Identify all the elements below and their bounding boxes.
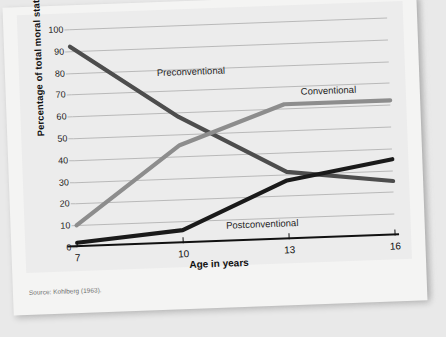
x-tick	[77, 241, 78, 247]
y-tick-label: 80	[55, 68, 65, 78]
source-note: Source: Kohlberg (1963).	[29, 286, 102, 296]
y-tick-label: 30	[59, 177, 69, 187]
chart-plot-area: 0102030405060708090100 7101316 Preconven…	[69, 18, 395, 248]
series-label-conventional: Conventional	[301, 84, 357, 97]
x-tick	[288, 233, 289, 239]
y-tick-label: 20	[60, 199, 70, 209]
y-tick-label: 60	[56, 112, 66, 122]
figure-plate: Percentage of total moral statements 010…	[17, 1, 412, 273]
scanned-page: Percentage of total moral statements 010…	[2, 0, 427, 315]
y-tick-label: 100	[48, 24, 63, 35]
y-tick-label: 40	[58, 155, 68, 165]
y-axis-label: Percentage of total moral statements	[29, 0, 46, 137]
y-tick-label: 10	[60, 221, 70, 231]
x-tick-label: 7	[75, 252, 81, 263]
x-tick	[394, 229, 395, 235]
x-tick-label: 16	[390, 240, 402, 251]
x-tick	[183, 237, 184, 243]
x-axis-label: Age in years	[26, 251, 412, 276]
y-tick-label: 50	[57, 133, 67, 143]
series-lines	[69, 18, 395, 248]
x-tick-label: 13	[284, 244, 296, 255]
y-tick-label: 90	[54, 46, 64, 56]
y-tick-label: 70	[56, 90, 66, 100]
y-tick-dash	[72, 247, 77, 248]
x-tick-label: 10	[178, 248, 190, 259]
